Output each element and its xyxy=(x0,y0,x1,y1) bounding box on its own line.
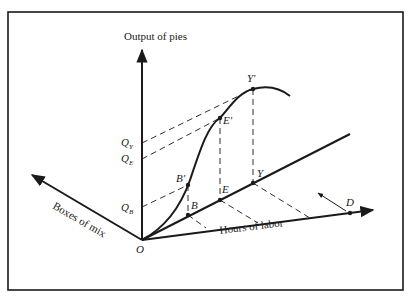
label-y-prime: Y' xyxy=(247,72,256,84)
point-e-prime xyxy=(218,116,222,120)
svg-text:B: B xyxy=(129,208,134,216)
point-b xyxy=(186,213,190,217)
hours-of-labor-label: Hours of labor xyxy=(219,216,284,236)
point-b-prime xyxy=(186,183,190,187)
points xyxy=(186,87,352,217)
output-axis-label: Output of pies xyxy=(124,30,187,42)
boxes-of-mix-label: Boxes of mix xyxy=(51,199,109,239)
q-b-label: Q B xyxy=(121,201,134,216)
label-b: B xyxy=(191,199,198,211)
q-e-label: Q E xyxy=(121,152,134,167)
label-d: D xyxy=(345,196,354,208)
production-diagram: Output of pies Boxes of mix Hours of lab… xyxy=(0,0,412,298)
svg-text:Q: Q xyxy=(121,136,129,148)
label-e: E xyxy=(221,183,229,195)
point-y xyxy=(251,181,255,185)
point-d xyxy=(348,211,352,215)
q-y-label: Q Y xyxy=(121,136,134,151)
point-e xyxy=(218,198,222,202)
label-b-prime: B' xyxy=(176,172,186,184)
svg-text:Q: Q xyxy=(121,152,129,164)
label-e-prime: E' xyxy=(222,114,233,126)
svg-text:E: E xyxy=(128,159,134,167)
diagram-frame xyxy=(8,12,403,290)
shift-arrow xyxy=(318,193,346,211)
origin-label: O xyxy=(136,243,144,255)
svg-text:Y: Y xyxy=(129,143,134,151)
svg-text:Q: Q xyxy=(121,201,129,213)
point-y-prime xyxy=(251,87,255,91)
